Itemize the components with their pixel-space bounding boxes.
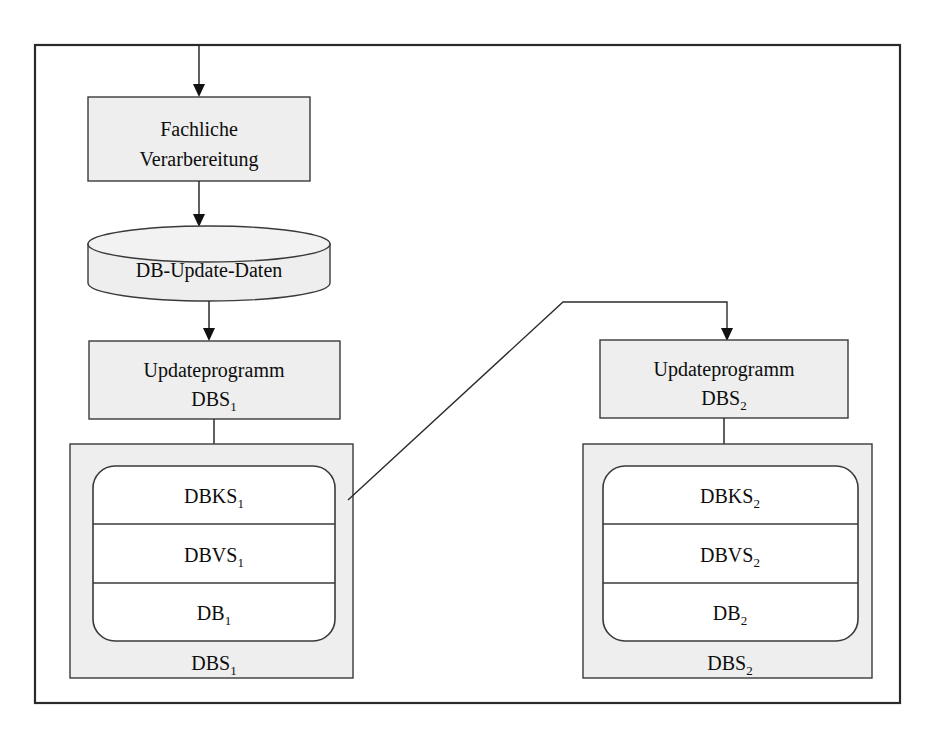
update-program-2-dbs-base: DBS bbox=[701, 387, 740, 409]
process-to-datastore-arrow bbox=[193, 181, 205, 227]
architecture-diagram: Fachliche Verarbereitung DB-Update-Daten… bbox=[0, 0, 930, 739]
dbs-2-layer-dbks-subscript: 2 bbox=[753, 496, 760, 511]
process-label-line1: Fachliche bbox=[160, 118, 238, 140]
dbs-2-layer-dbvs-subscript: 2 bbox=[753, 555, 760, 570]
dbs-2-container-label-subscript: 2 bbox=[746, 663, 753, 678]
update-program-2-label-line1: Updateprogramm bbox=[653, 358, 795, 381]
process-label-line2: Verarbereitung bbox=[140, 148, 259, 171]
diagram-root: Fachliche Verarbereitung DB-Update-Daten… bbox=[0, 0, 930, 739]
dbs-1-layer-db-base: DB bbox=[197, 602, 225, 624]
input-to-process-arrow bbox=[193, 46, 205, 97]
dbs-2-layer-dbks-base: DBKS bbox=[700, 485, 753, 507]
datastore-to-updateprogram-1-arrow bbox=[203, 301, 215, 341]
dbs-2-layer-dbvs-base: DBVS bbox=[700, 544, 753, 566]
dbs-1-layer-dbvs-subscript: 1 bbox=[237, 555, 244, 570]
dbs-1-layer-dbvs-base: DBVS bbox=[184, 544, 237, 566]
dbs-1-layer-dbks-base: DBKS bbox=[184, 485, 237, 507]
dbs-2-container-label-base: DBS bbox=[707, 652, 746, 674]
update-program-2-dbs-subscript: 2 bbox=[740, 398, 747, 413]
dbs-1-container-label-subscript: 1 bbox=[230, 663, 237, 678]
update-program-1-dbs-base: DBS bbox=[191, 388, 230, 410]
dbs-1-layer-db-subscript: 1 bbox=[225, 613, 232, 628]
update-program-1-label-line1: Updateprogramm bbox=[143, 359, 285, 382]
dbs-2-layer-db-base: DB bbox=[713, 602, 741, 624]
update-program-1-dbs-subscript: 1 bbox=[230, 399, 237, 414]
dbs-2-layer-db-subscript: 2 bbox=[741, 613, 748, 628]
datastore-label: DB-Update-Daten bbox=[136, 259, 283, 282]
dbs-1-layer-dbks-subscript: 1 bbox=[237, 496, 244, 511]
dbs-1-container-label-base: DBS bbox=[191, 652, 230, 674]
